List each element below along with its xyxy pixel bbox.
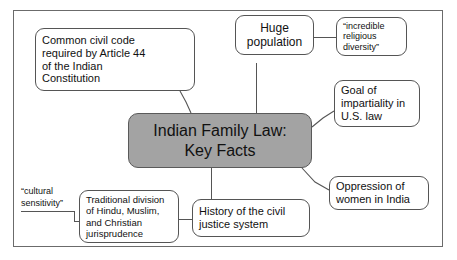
node-goal-impartiality[interactable]: Goal of impartiality in U.S. law [334,80,420,127]
node-history-civil-justice[interactable]: History of the civil justice system [192,199,310,237]
node-common-civil-code[interactable]: Common civil code required by Article 44… [35,28,195,91]
node-traditional-division[interactable]: Traditional division of Hindu, Muslim, a… [79,190,179,243]
diagram-canvas: Indian Family Law: Key Facts Common civi… [0,0,457,260]
center-node[interactable]: Indian Family Law: Key Facts [128,113,312,168]
connector-goal-impartiality [312,111,334,127]
connector-oppression-women [302,168,329,190]
connector-cultural-sensitivity [21,211,80,221]
node-oppression-women[interactable]: Oppression of women in India [329,176,429,210]
label-cultural-sensitivity: “cultural sensitivity” [21,186,85,209]
node-religious-diversity[interactable]: “incredible religious diversity” [336,17,407,56]
node-huge-population[interactable]: Huge population [235,15,314,55]
connector-common-civil-code [180,91,191,113]
